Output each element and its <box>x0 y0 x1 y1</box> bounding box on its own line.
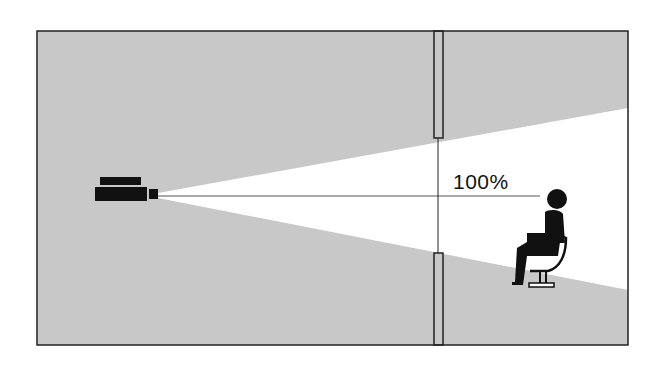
projection-diagram <box>0 0 666 375</box>
lower-window-pane <box>434 253 443 345</box>
brightness-label: 100% <box>453 170 509 194</box>
upper-window-pane <box>434 31 443 138</box>
